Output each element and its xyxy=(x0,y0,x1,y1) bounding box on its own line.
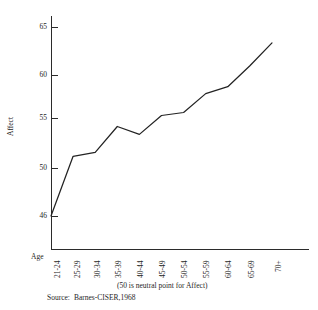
affect-data-line xyxy=(51,43,272,216)
x-tick-label-25-29: 25-29 xyxy=(74,261,82,279)
y-tick-label-50: 50 xyxy=(31,164,47,172)
x-tick-label-30-34: 30-34 xyxy=(94,261,102,279)
x-tick-label-70-plus: 70+ xyxy=(275,260,283,272)
x-tick-label-65-69: 65-69 xyxy=(248,261,256,279)
x-tick-label-21-24: 21-24 xyxy=(54,261,62,279)
x-tick-label-35-39: 35-39 xyxy=(115,261,123,279)
x-tick-label-60-64: 60-64 xyxy=(225,261,233,279)
y-tick-label-65: 65 xyxy=(31,23,47,31)
y-tick-label-46: 46 xyxy=(31,212,47,220)
y-axis-title: Affect xyxy=(6,117,15,136)
x-tick-label-50-54: 50-54 xyxy=(181,261,189,279)
x-tick-label-55-59: 55-59 xyxy=(203,261,211,279)
source-value: Barnes-CISER,1968 xyxy=(74,293,135,302)
x-tick-label-45-49: 45-49 xyxy=(159,261,167,279)
chart-figure: 65 60 55 50 46 Affect Age 21-24 25-29 30… xyxy=(0,0,318,310)
source-label: Source: xyxy=(47,293,70,302)
y-tick-label-55: 55 xyxy=(31,114,47,122)
y-tick-label-60: 60 xyxy=(31,71,47,79)
neutral-point-note: (50 is neutral point for Affect) xyxy=(117,281,207,290)
x-tick-label-40-44: 40-44 xyxy=(137,261,145,279)
source-caption: Source:Barnes-CISER,1968 xyxy=(47,293,135,302)
x-axis-title: Age xyxy=(31,252,44,261)
